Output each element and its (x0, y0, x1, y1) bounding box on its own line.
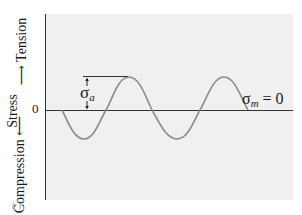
stress-amplitude-label: σa (80, 83, 95, 103)
mean-stress-label: σm = 0 (242, 90, 284, 109)
arrow-up-icon: ⟶ (14, 65, 29, 85)
arrow-down-icon: ⟵ (12, 116, 27, 136)
tension-label: ⟶ Tension (13, 12, 30, 92)
zero-label: 0 (32, 101, 39, 117)
panel-mark: ( ) (12, 200, 21, 211)
